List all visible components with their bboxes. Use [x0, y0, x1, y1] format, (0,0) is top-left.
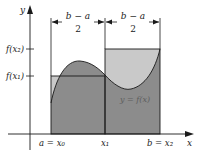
y-axis-label: y: [19, 5, 26, 15]
label-f-x2: f(x₂): [5, 44, 24, 54]
y-axis-arrow-icon: [27, 5, 33, 14]
left-width-numerator: b − a: [66, 11, 90, 21]
label-a-x0: a = x₀: [39, 138, 65, 148]
x-axis-arrow-icon: [185, 131, 194, 137]
right-width-numerator: b − a: [121, 11, 145, 21]
curve-label: y = f(x): [119, 95, 150, 104]
left-width-denominator: 2: [75, 24, 81, 34]
right-width-denominator: 2: [130, 24, 136, 34]
label-b-x2: b = x₂: [147, 138, 174, 148]
x-axis-label: x: [187, 138, 192, 148]
label-x1: x₁: [101, 138, 109, 148]
diagram-midpoint-rectangles: b − a 2 b − a 2 y x f(x₂) f(x₁) a = x₀ x…: [0, 0, 197, 155]
label-f-x1: f(x₁): [5, 71, 24, 81]
